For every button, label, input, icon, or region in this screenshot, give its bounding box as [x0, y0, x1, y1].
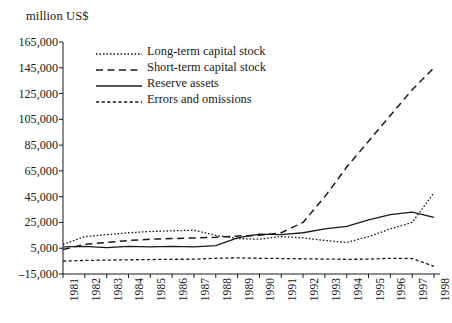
legend-item: Long-term capital stock	[96, 44, 306, 59]
legend-line-sample-icon	[96, 78, 142, 90]
series-line-3	[63, 258, 434, 266]
legend-line-sample-icon	[96, 62, 142, 74]
legend-item: Short-term capital stock	[96, 60, 306, 75]
legend-label: Reserve assets	[147, 77, 219, 90]
legend-label: Long-term capital stock	[147, 45, 265, 58]
legend-label: Errors and omissions	[147, 93, 252, 106]
chart-legend: Long-term capital stockShort-term capita…	[96, 44, 306, 108]
legend-label: Short-term capital stock	[147, 61, 266, 74]
legend-item: Errors and omissions	[96, 92, 306, 107]
legend-item: Reserve assets	[96, 76, 306, 91]
legend-line-sample-icon	[96, 46, 142, 58]
series-line-2	[63, 212, 434, 247]
legend-line-sample-icon	[96, 94, 142, 106]
